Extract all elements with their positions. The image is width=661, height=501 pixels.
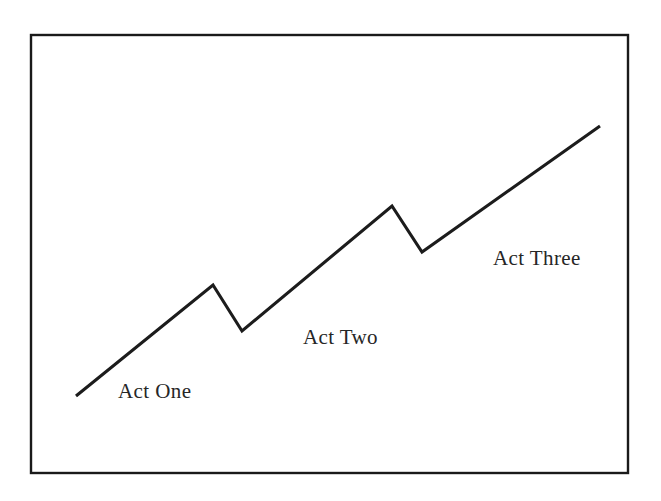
act-three-label: Act Three <box>493 248 581 269</box>
act-one-label: Act One <box>118 381 191 402</box>
diagram-canvas: Act One Act Two Act Three <box>0 0 661 501</box>
act-two-label: Act Two <box>303 327 378 348</box>
